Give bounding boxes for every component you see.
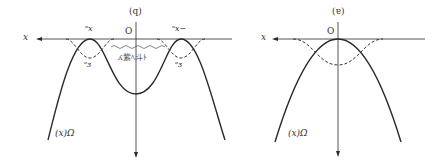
curve-label: (x)Ω [55, 128, 75, 138]
level-label-right: ᵒɜ [175, 60, 182, 69]
level-label-left: ᵒɜ [84, 60, 91, 69]
origin-label: O [327, 26, 334, 36]
x-axis-arrow-icon [36, 37, 42, 41]
tunnel-annotation: ʎ紫ﾍ斗ﾄ [118, 51, 147, 62]
peak-label-right: ᵒx− [172, 24, 186, 33]
axis-label: x [261, 32, 266, 42]
peak-label-left: ᵒx [85, 24, 93, 33]
origin-label: O [125, 26, 132, 36]
axis-label: x [23, 32, 28, 42]
tunneling-wave [111, 46, 165, 49]
y-axis-arrow-icon [336, 151, 340, 157]
panel-label: (ɐ) [332, 6, 344, 16]
curve-label: (x)Ω [288, 128, 308, 138]
y-axis-arrow-icon [134, 152, 138, 158]
wavefunction-right [157, 39, 205, 58]
x-axis-arrow-icon [272, 37, 278, 41]
potential-diagram [0, 0, 442, 164]
panel-label: (q) [129, 6, 142, 16]
